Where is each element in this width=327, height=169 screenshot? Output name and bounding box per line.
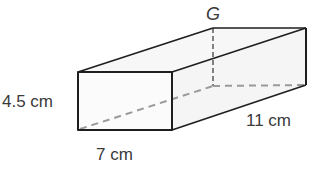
length-label: 11 cm: [246, 111, 291, 130]
prism-diagram: G 4.5 cm 7 cm 11 cm: [0, 0, 327, 169]
height-label: 4.5 cm: [2, 92, 53, 111]
width-label: 7 cm: [96, 145, 133, 164]
front-face: [78, 72, 172, 130]
vertex-g-label: G: [206, 4, 220, 24]
